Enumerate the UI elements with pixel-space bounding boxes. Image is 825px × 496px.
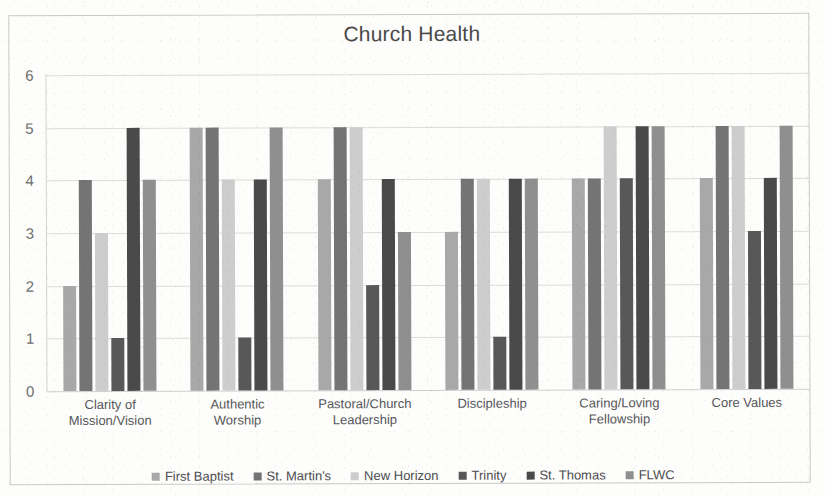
- plot-area: 0123456: [45, 73, 810, 391]
- x-axis-label: Pastoral/ChurchLeadership: [301, 396, 428, 428]
- bar[interactable]: [748, 231, 761, 389]
- legend-label: FLWC: [639, 467, 675, 482]
- legend-item[interactable]: St. Martin's: [253, 468, 331, 483]
- bar[interactable]: [731, 126, 745, 389]
- bar-groups: [45, 73, 810, 391]
- bar[interactable]: [636, 126, 650, 389]
- chart-skew-wrapper: Church Health 0123456 Clarity ofMission/…: [0, 0, 825, 496]
- chart-container: Church Health 0123456 Clarity ofMission/…: [0, 0, 825, 496]
- bar[interactable]: [239, 338, 252, 391]
- bar[interactable]: [652, 126, 666, 389]
- bar[interactable]: [349, 127, 363, 390]
- bar[interactable]: [63, 286, 76, 391]
- legend-swatch-icon: [526, 471, 534, 479]
- y-tick-label-1: 1: [26, 330, 34, 347]
- legend-swatch-icon: [459, 471, 467, 479]
- y-tick-label-6: 6: [25, 67, 33, 84]
- legend-swatch-icon: [253, 472, 261, 480]
- bar[interactable]: [366, 285, 379, 390]
- bar[interactable]: [700, 178, 714, 389]
- y-tick-label-0: 0: [26, 383, 34, 400]
- bar[interactable]: [715, 126, 729, 389]
- legend-swatch-icon: [351, 472, 359, 480]
- bar[interactable]: [493, 337, 506, 390]
- bar[interactable]: [477, 179, 491, 390]
- bar-group: [682, 73, 810, 389]
- chart-legend: First BaptistSt. Martin'sNew HorizonTrin…: [1, 467, 825, 485]
- y-tick-label-5: 5: [25, 119, 33, 136]
- legend-label: St. Thomas: [539, 467, 605, 482]
- chart-title: Church Health: [0, 21, 824, 48]
- bar-group: [300, 74, 428, 390]
- bar[interactable]: [588, 179, 602, 390]
- bar-group: [173, 74, 301, 390]
- bar[interactable]: [461, 179, 475, 390]
- bar[interactable]: [111, 338, 124, 391]
- x-axis-label: AuthenticWorship: [174, 396, 301, 428]
- x-axis-label: Core Values: [683, 395, 810, 427]
- legend-item[interactable]: First Baptist: [152, 469, 234, 484]
- bar[interactable]: [95, 233, 108, 391]
- bar[interactable]: [604, 126, 618, 389]
- bar[interactable]: [222, 180, 236, 391]
- legend-swatch-icon: [626, 471, 634, 479]
- y-tick-label-2: 2: [26, 277, 34, 294]
- bar[interactable]: [382, 179, 396, 390]
- bar[interactable]: [79, 180, 93, 391]
- legend-label: St. Martin's: [266, 468, 331, 483]
- legend-label: New Horizon: [364, 468, 438, 483]
- bar[interactable]: [445, 232, 458, 390]
- legend-item[interactable]: FLWC: [626, 467, 675, 482]
- bar[interactable]: [764, 178, 778, 389]
- bar[interactable]: [127, 128, 141, 391]
- bar[interactable]: [525, 179, 539, 390]
- legend-item[interactable]: Trinity: [459, 468, 507, 483]
- y-tick-label-4: 4: [25, 172, 33, 189]
- bar[interactable]: [190, 127, 204, 390]
- x-axis-label: Clarity ofMission/Vision: [46, 397, 173, 429]
- bar-group: [427, 74, 555, 390]
- bar[interactable]: [254, 180, 268, 391]
- bar[interactable]: [143, 180, 157, 391]
- x-axis-label: Caring/LovingFellowship: [556, 395, 683, 427]
- bar-group: [555, 73, 683, 389]
- legend-label: Trinity: [472, 468, 507, 483]
- legend-swatch-icon: [152, 472, 160, 480]
- bar[interactable]: [206, 127, 220, 390]
- bar[interactable]: [509, 179, 523, 390]
- legend-item[interactable]: New Horizon: [351, 468, 438, 483]
- bar[interactable]: [398, 232, 411, 390]
- legend-item[interactable]: St. Thomas: [526, 467, 605, 482]
- bar-group: [45, 75, 173, 391]
- bar[interactable]: [318, 180, 332, 391]
- x-axis-category-labels: Clarity ofMission/VisionAuthenticWorship…: [46, 395, 810, 429]
- bar[interactable]: [333, 127, 347, 390]
- bar[interactable]: [572, 179, 586, 390]
- bar[interactable]: [270, 127, 284, 390]
- bar[interactable]: [620, 179, 634, 390]
- x-axis-label: Discipleship: [428, 396, 555, 428]
- legend-label: First Baptist: [165, 469, 234, 484]
- y-tick-label-3: 3: [26, 225, 34, 242]
- bar[interactable]: [779, 125, 793, 388]
